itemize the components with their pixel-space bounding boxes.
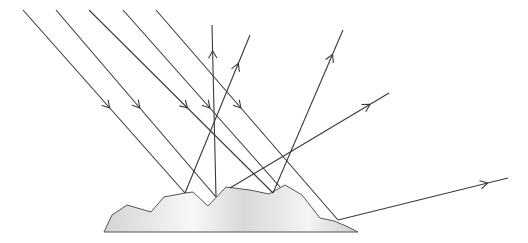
incident-1-line — [23, 10, 185, 193]
diffuse-reflection-diagram — [0, 0, 528, 243]
reflected-1-line — [185, 35, 250, 193]
incident-2-line — [56, 10, 216, 197]
incident-3-line — [89, 10, 273, 193]
reflected-5-line — [338, 178, 508, 220]
incident-4-line — [123, 10, 280, 187]
rough-surface — [104, 185, 358, 232]
